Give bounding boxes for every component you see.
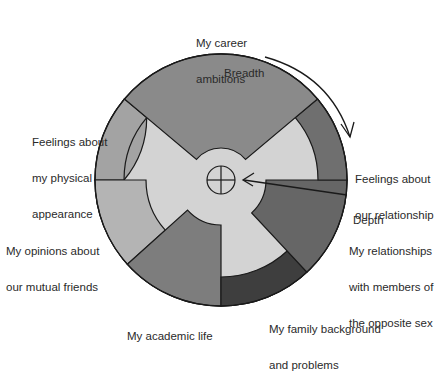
- label-line: My family background: [269, 323, 381, 335]
- label-line: with members of: [349, 281, 433, 293]
- label-line: appearance: [32, 208, 107, 220]
- label-family: My family background and problems: [269, 299, 381, 375]
- label-line: My relationships: [349, 245, 433, 257]
- label-line: my physical: [32, 172, 107, 184]
- label-line: and problems: [269, 359, 381, 371]
- label-breadth: Breadth: [224, 43, 264, 91]
- label-line: My opinions about: [6, 245, 99, 257]
- label-physical-appearance: Feelings about my physical appearance: [32, 112, 107, 232]
- label-academic: My academic life: [127, 306, 213, 354]
- label-friends-opinions: My opinions about our mutual friends: [6, 221, 99, 305]
- label-line: My academic life: [127, 330, 213, 342]
- label-line: Feelings about: [32, 136, 107, 148]
- label-line: our mutual friends: [6, 281, 99, 293]
- center-crosshair-icon: [207, 166, 235, 194]
- label-line: Feelings about: [355, 173, 434, 185]
- breadth-label: Breadth: [224, 67, 264, 79]
